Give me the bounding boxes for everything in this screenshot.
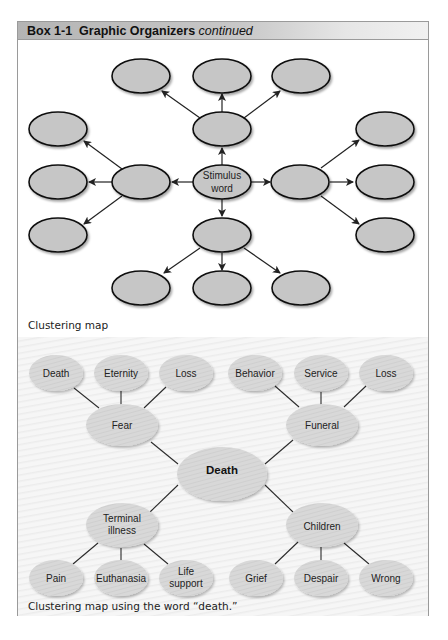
cluster-node xyxy=(29,112,87,146)
cluster-node xyxy=(272,271,330,305)
fear-label: Fear xyxy=(112,420,133,431)
cluster-node xyxy=(29,218,87,252)
fear-child-1: Death xyxy=(43,368,70,379)
children-child-2: Despair xyxy=(304,573,339,584)
terminal-child-3-line2: support xyxy=(169,578,203,589)
cluster-node xyxy=(272,59,330,93)
funeral-child-2: Service xyxy=(304,368,338,379)
death-map-caption: Clustering map using the word “death.” xyxy=(28,600,237,612)
cluster-node xyxy=(356,165,414,199)
funeral-child-1: Behavior xyxy=(235,368,275,379)
cluster-node xyxy=(29,165,87,199)
funeral-child-3: Loss xyxy=(375,368,396,379)
cluster-node xyxy=(193,112,251,146)
cluster-node xyxy=(193,218,251,252)
cluster-node xyxy=(356,218,414,252)
cluster-node xyxy=(271,165,329,199)
cluster-node xyxy=(112,59,170,93)
terminal-label-line2: illness xyxy=(108,525,136,536)
death-center-label: Death xyxy=(206,464,238,476)
cluster-node xyxy=(193,59,251,93)
children-label: Children xyxy=(303,521,340,532)
cluster-node xyxy=(112,271,170,305)
terminal-label-line1: Terminal xyxy=(103,513,141,524)
fear-child-3: Loss xyxy=(175,368,196,379)
terminal-child-3-line1: Life xyxy=(178,566,195,577)
fear-child-2: Eternity xyxy=(104,368,138,379)
terminal-child-1: Pain xyxy=(46,573,66,584)
clustering-map-caption: Clustering map xyxy=(28,319,108,331)
cluster-node xyxy=(112,165,170,199)
terminal-child-2: Euthanasia xyxy=(96,573,146,584)
funeral-label: Funeral xyxy=(305,420,339,431)
children-child-3: Wrong xyxy=(371,573,400,584)
stimulus-label-line1: Stimulus xyxy=(203,170,241,181)
cluster-node xyxy=(193,271,251,305)
cluster-node xyxy=(356,112,414,146)
stimulus-label-line2: word xyxy=(210,183,233,194)
children-child-1: Grief xyxy=(245,573,267,584)
